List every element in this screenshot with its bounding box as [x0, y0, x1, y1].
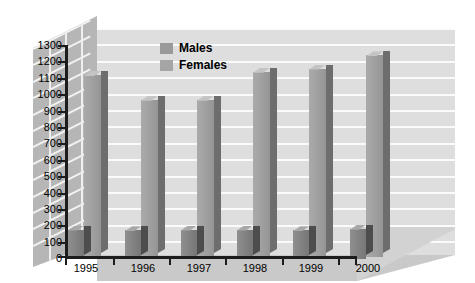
bar-side [383, 51, 390, 253]
y-tick [58, 225, 65, 227]
legend-swatch-females [160, 60, 173, 71]
bar-side [253, 226, 260, 256]
bar-face [237, 230, 253, 260]
bar-side [214, 96, 221, 253]
y-axis [65, 45, 68, 258]
y-tick [58, 127, 65, 129]
y-tick [58, 78, 65, 80]
y-tick [58, 209, 65, 211]
y-tick [58, 94, 65, 96]
bar-face [125, 230, 141, 259]
bar-males-1995 [68, 230, 84, 260]
x-tick [338, 259, 340, 265]
x-tick-label-1996: 1996 [120, 262, 166, 274]
bar-males-2000 [350, 229, 366, 259]
x-tick-label-1995: 1995 [63, 262, 109, 274]
legend-label-males: Males [179, 41, 212, 55]
y-tick [58, 45, 65, 47]
y-tick [58, 256, 65, 258]
legend-label-females: Females [179, 58, 227, 72]
x-axis [65, 256, 357, 259]
bar-side [141, 226, 148, 255]
x-tick-label-1999: 1999 [288, 262, 334, 274]
bar-males-1997 [181, 230, 197, 260]
gridline [97, 28, 455, 30]
bar-face [350, 229, 366, 259]
chart-legend: Males Females [160, 40, 227, 74]
x-tick [169, 259, 171, 265]
legend-swatch-males [160, 43, 173, 54]
y-axis-labels: 1300 1200 1100 1000 900 800 700 600 500 … [0, 45, 62, 258]
x-tick-label-2000: 2000 [345, 262, 391, 274]
bar-side [326, 65, 333, 254]
y-tick [58, 160, 65, 162]
bar-side [309, 226, 316, 255]
y-tick [58, 193, 65, 195]
bar-males-1999 [293, 230, 309, 259]
y-tick [58, 61, 65, 63]
gridline [97, 44, 455, 46]
x-tick [225, 259, 227, 265]
y-tick [58, 143, 65, 145]
x-tick-label-1998: 1998 [232, 262, 278, 274]
bar-side [366, 225, 373, 255]
gridline [97, 61, 455, 63]
x-tick [113, 259, 115, 265]
y-tick [58, 176, 65, 178]
x-tick [282, 259, 284, 265]
bar-face [293, 230, 309, 259]
y-tick [58, 111, 65, 113]
y-tick [58, 242, 65, 244]
bar-chart: 1300 1200 1100 1000 900 800 700 600 500 … [0, 0, 475, 283]
bar-males-1996 [125, 230, 141, 259]
bar-side [158, 96, 165, 253]
bar-face [181, 230, 197, 260]
bar-side [197, 226, 204, 256]
y-tick-label: 0 [56, 253, 62, 263]
bar-face [68, 230, 84, 260]
bar-side [84, 226, 91, 256]
legend-item-males: Males [160, 40, 227, 56]
bar-side [270, 68, 277, 253]
legend-item-females: Females [160, 57, 227, 73]
bar-males-1998 [237, 230, 253, 260]
bar-side [101, 71, 108, 253]
x-tick-label-1997: 1997 [176, 262, 222, 274]
